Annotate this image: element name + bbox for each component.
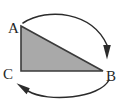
vertex-label-a: A bbox=[8, 20, 19, 36]
triangle-ABC bbox=[21, 26, 103, 71]
arrowhead-down-at-b bbox=[103, 45, 111, 60]
vertex-label-b: B bbox=[106, 68, 116, 84]
triangle-rotation-diagram: A B C bbox=[0, 0, 123, 107]
diagram-canvas: A B C bbox=[0, 0, 123, 107]
arrowhead-upleft-at-c bbox=[17, 83, 30, 94]
arc-arrow-bottom bbox=[28, 80, 109, 98]
vertex-label-c: C bbox=[3, 66, 13, 82]
